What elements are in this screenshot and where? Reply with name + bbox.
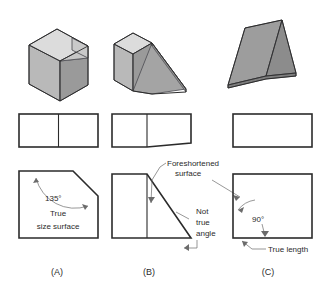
true-size-label-line2: size surface <box>37 222 80 231</box>
column-label-b: (B) <box>143 267 155 277</box>
foreshortened-label-line2: surface <box>175 169 202 178</box>
not-true-angle-annotation: Not true angle <box>196 207 216 238</box>
front-view-a-arrowhead-end <box>82 204 88 210</box>
angle-90-label: 90° <box>252 215 264 224</box>
top-view-b <box>112 114 191 147</box>
foreshortened-label-line1: Foreshortened <box>167 159 219 168</box>
figure-root: 135° True size surface Foreshortened sur… <box>0 0 325 287</box>
true-length-label: True length <box>268 245 308 254</box>
not-true-angle-line1: Not <box>196 207 209 216</box>
pictorial-a-chamfered-block <box>29 29 88 101</box>
front-view-c-angle-arc <box>238 200 255 210</box>
top-view-a <box>19 114 98 147</box>
front-view-c-down-arrowhead <box>261 231 269 237</box>
technical-drawing-canvas: 135° True size surface Foreshortened sur… <box>0 0 325 287</box>
front-view-c-outline <box>233 174 312 238</box>
front-view-a-angle-arc <box>36 178 88 208</box>
front-view-a-arrowhead-start <box>33 178 39 183</box>
not-true-angle-line2: true <box>196 218 210 227</box>
bottom-corner-arrowhead-b <box>184 244 189 251</box>
pictorial-c-triangular-wedge <box>228 20 296 88</box>
top-view-c-outline <box>233 114 312 147</box>
foreshortened-surface-annotation: Foreshortened surface <box>167 159 240 201</box>
top-view-b-outline <box>112 114 191 147</box>
true-length-arrowhead <box>242 241 248 247</box>
front-view-a: 135° True size surface <box>19 171 98 238</box>
pictorial-a-right-face <box>60 58 88 101</box>
foreshortened-leader-c <box>212 180 240 197</box>
foreshortened-arrowhead-b <box>148 197 155 203</box>
angle-135-label: 135° <box>45 194 62 203</box>
not-true-angle-line3: angle <box>196 229 216 238</box>
column-label-a: (A) <box>51 267 63 277</box>
front-view-c-angle-arrowhead <box>238 207 244 213</box>
column-label-c: (C) <box>262 267 275 277</box>
true-size-label-line1: True <box>50 209 67 218</box>
pictorial-b-block-with-wedge <box>114 33 186 94</box>
foreshortened-leader-tick <box>160 163 166 167</box>
front-view-c: 90° True length <box>233 174 312 254</box>
foreshortened-arrowhead-c <box>233 195 240 201</box>
top-view-c <box>233 114 312 147</box>
